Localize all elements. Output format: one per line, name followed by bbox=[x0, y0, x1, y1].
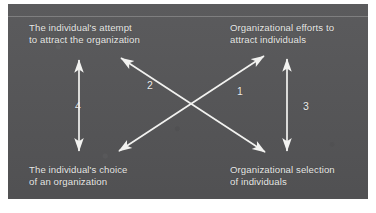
arrow-label-4: 4 bbox=[75, 101, 81, 112]
node-label-bottom-left-line2: of an organization bbox=[29, 176, 107, 187]
node-label-bottom-right-line1: Organizational selection bbox=[230, 164, 335, 175]
node-label-top-left: The individual's attempt to attract the … bbox=[29, 22, 140, 46]
arrow-label-3: 3 bbox=[303, 101, 309, 112]
node-label-top-right-line1: Organizational efforts to bbox=[230, 22, 334, 33]
node-label-top-left-line2: to attract the organization bbox=[29, 34, 140, 45]
arrow-label-2: 2 bbox=[147, 80, 153, 91]
node-label-bottom-right-line2: of individuals bbox=[230, 176, 287, 187]
diagram-panel: The individual's attempt to attract the … bbox=[8, 4, 368, 199]
node-label-top-right-line2: attract individuals bbox=[230, 34, 306, 45]
top-divider-rule bbox=[8, 16, 368, 17]
node-label-top-left-line1: The individual's attempt bbox=[29, 22, 132, 33]
arrow-label-1: 1 bbox=[237, 86, 243, 97]
node-label-bottom-right: Organizational selection of individuals bbox=[230, 164, 335, 188]
node-label-top-right: Organizational efforts to attract indivi… bbox=[230, 22, 334, 46]
diagram-figure: The individual's attempt to attract the … bbox=[0, 0, 376, 213]
node-label-bottom-left-line1: The individual's choice bbox=[29, 164, 128, 175]
node-label-bottom-left: The individual's choice of an organizati… bbox=[29, 164, 128, 188]
